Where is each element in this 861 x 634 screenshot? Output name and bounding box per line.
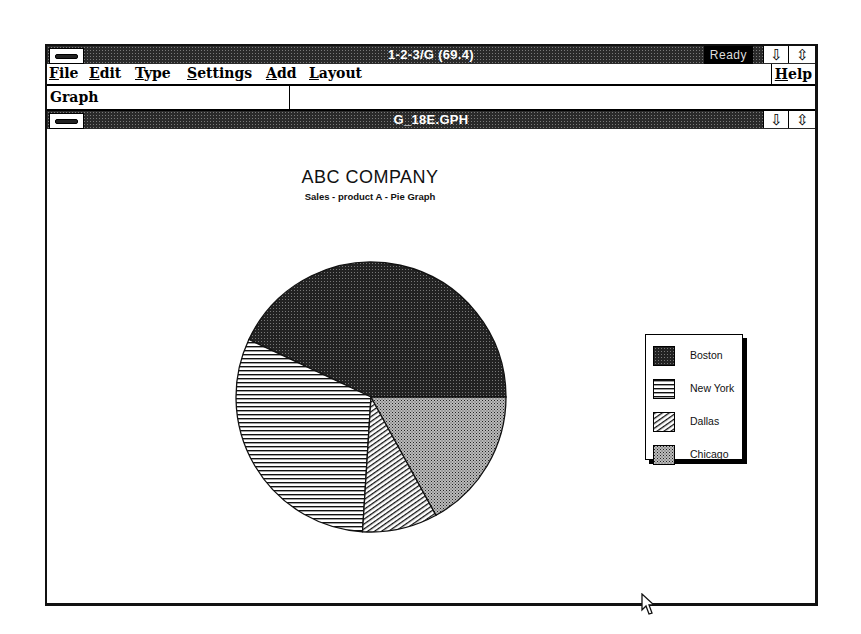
legend-label: Boston bbox=[690, 349, 723, 361]
legend-swatch bbox=[653, 379, 675, 399]
document-title-bar[interactable]: G_18E.GPH ⇩ ⇳ bbox=[47, 111, 815, 129]
restore-arrows-icon: ⇳ bbox=[796, 46, 809, 63]
menu-add[interactable]: Add bbox=[266, 65, 296, 81]
mode-bar: Graph bbox=[47, 86, 815, 111]
mode-label: Graph bbox=[50, 89, 98, 105]
menu-file-rest: ile bbox=[59, 65, 79, 81]
mode-bar-divider bbox=[289, 86, 290, 109]
menu-layout[interactable]: Layout bbox=[309, 65, 362, 81]
document-restore-button[interactable]: ⇳ bbox=[788, 111, 815, 128]
document-title: G_18E.GPH bbox=[47, 112, 815, 127]
menu-bar: File Edit Type Settings Add Layout Help bbox=[47, 64, 815, 86]
chart-legend: BostonNew YorkDallasChicago bbox=[645, 334, 743, 460]
menu-edit[interactable]: Edit bbox=[89, 65, 121, 81]
menu-file[interactable]: File bbox=[49, 65, 79, 81]
menu-help[interactable]: Help bbox=[771, 64, 815, 84]
menu-type[interactable]: Type bbox=[135, 65, 171, 81]
legend-label: Dallas bbox=[690, 415, 719, 427]
legend-swatch bbox=[653, 412, 675, 432]
legend-swatch bbox=[653, 445, 675, 465]
minimize-arrow-icon: ⇩ bbox=[770, 111, 783, 128]
menu-settings[interactable]: Settings bbox=[187, 65, 252, 81]
document-minimize-button[interactable]: ⇩ bbox=[763, 111, 788, 128]
legend-label: New York bbox=[690, 382, 734, 394]
restore-button[interactable]: ⇳ bbox=[788, 46, 815, 63]
restore-arrows-icon: ⇳ bbox=[796, 111, 809, 128]
graph-canvas[interactable]: ABC COMPANY Sales - product A - Pie Grap… bbox=[47, 130, 815, 603]
legend-swatch bbox=[653, 346, 675, 366]
minimize-arrow-icon: ⇩ bbox=[770, 46, 783, 63]
mouse-pointer-icon bbox=[641, 593, 659, 617]
status-indicator: Ready bbox=[704, 46, 753, 64]
legend-label: Chicago bbox=[690, 448, 729, 460]
app-title-bar[interactable]: 1-2-3/G (69.4) Ready ⇩ ⇳ bbox=[47, 46, 815, 64]
app-window: 1-2-3/G (69.4) Ready ⇩ ⇳ File Edit Type … bbox=[45, 44, 818, 606]
minimize-button[interactable]: ⇩ bbox=[763, 46, 788, 63]
app-title: 1-2-3/G (69.4) bbox=[47, 47, 815, 62]
